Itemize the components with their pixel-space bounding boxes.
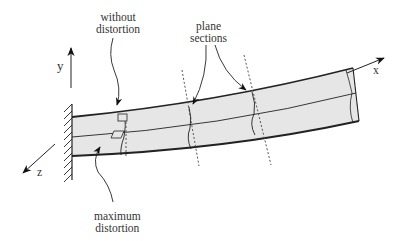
fixed-wall (64, 104, 72, 182)
element-without-distortion (118, 114, 127, 121)
label-line: without (96, 11, 140, 23)
label-plane-sections: plane sections (190, 20, 227, 44)
label-line: distortion (94, 222, 141, 234)
label-line: maximum (94, 210, 141, 222)
axis-label-y: y (57, 60, 64, 72)
axis-label-z: z (37, 166, 42, 178)
label-maximum-distortion: maximum distortion (94, 210, 141, 234)
leader-plane-section-left (193, 45, 206, 104)
leader-without-distortion (111, 38, 119, 105)
axis-label-x: x (373, 64, 379, 76)
label-line: distortion (96, 23, 140, 35)
label-line: plane (190, 20, 227, 32)
label-line: sections (190, 32, 227, 44)
label-without-distortion: without distortion (96, 11, 140, 35)
leader-plane-section-right (215, 45, 246, 90)
